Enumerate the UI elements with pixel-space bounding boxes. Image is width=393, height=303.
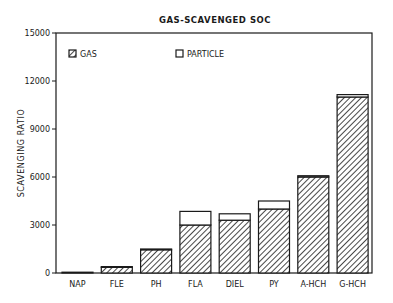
y-tick-label: 3000 [30, 221, 50, 230]
bar-a-hch [298, 176, 329, 273]
x-axis-labels: NAPFLEPHFLADIELPYA-HCHG-HCH [69, 280, 366, 289]
bar-segment-gas [337, 97, 368, 273]
chart-title: GAS-SCAVENGED SOC [159, 15, 271, 25]
bar-segment-particle [101, 267, 132, 268]
x-tick-label: DIEL [226, 280, 245, 289]
bar-segment-gas [259, 209, 290, 273]
stacked-bar-chart: GAS-SCAVENGED SOC 0300060009000120001500… [0, 0, 393, 303]
bar-segment-particle [298, 176, 329, 177]
bar-segment-particle [180, 211, 211, 225]
x-tick-label: FLA [188, 280, 203, 289]
legend-particle-label: PARTICLE [187, 50, 224, 59]
bar-segment-gas [101, 267, 132, 273]
bar-fle [101, 267, 132, 273]
bar-segment-gas [219, 220, 250, 273]
bar-fla [180, 211, 211, 273]
bar-segment-gas [298, 177, 329, 273]
legend: GAS PARTICLE [69, 50, 224, 59]
x-tick-label: PH [151, 280, 162, 289]
bar-segment-gas [141, 250, 172, 273]
bar-segment-gas [180, 225, 211, 273]
y-tick-label: 6000 [30, 173, 50, 182]
x-tick-label: FLE [110, 280, 124, 289]
y-axis-label: SCAVENGING RATIO [17, 109, 26, 198]
bar-segment-particle [219, 214, 250, 220]
bar-nap [62, 272, 93, 273]
legend-item-gas: GAS [69, 50, 97, 59]
bar-segment-particle [141, 249, 172, 250]
x-tick-label: A-HCH [300, 280, 326, 289]
y-tick-label: 9000 [30, 125, 50, 134]
y-axis: 03000600090001200015000 [25, 29, 56, 278]
x-tick-label: G-HCH [339, 280, 366, 289]
x-tick-label: PY [269, 280, 279, 289]
bar-diel [219, 214, 250, 273]
legend-item-particle: PARTICLE [176, 50, 224, 59]
bar-ph [141, 249, 172, 273]
legend-gas-label: GAS [80, 50, 97, 59]
y-tick-label: 0 [45, 269, 50, 278]
bar-group [62, 95, 368, 273]
particle-swatch-icon [176, 50, 183, 57]
bar-py [259, 201, 290, 273]
bar-g-hch [337, 95, 368, 273]
bar-segment-particle [337, 95, 368, 97]
y-tick-label: 15000 [25, 29, 50, 38]
bar-segment-particle [259, 201, 290, 209]
x-tick-label: NAP [69, 280, 85, 289]
gas-swatch-icon [69, 50, 76, 57]
bar-segment-gas [62, 272, 93, 273]
y-tick-label: 12000 [25, 77, 50, 86]
